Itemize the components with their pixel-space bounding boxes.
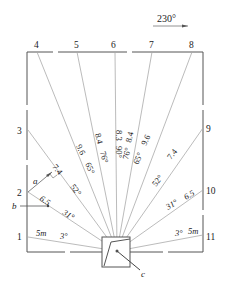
svg-text:b: b bbox=[12, 201, 17, 211]
line-11-angle: 3° bbox=[174, 228, 183, 238]
line-8-distance: 9.6 bbox=[139, 133, 153, 147]
line-3-angle: 52° bbox=[68, 182, 83, 198]
line-number-11: 11 bbox=[206, 232, 215, 242]
line-11-distance: 5m bbox=[188, 226, 198, 236]
point-icon bbox=[47, 205, 49, 207]
source-box: c bbox=[102, 237, 145, 279]
line-10-distance: 6.5 bbox=[182, 188, 196, 202]
svg-text:a: a bbox=[33, 176, 38, 186]
line-2-distance: 6.5 bbox=[38, 193, 52, 207]
line-number-10: 10 bbox=[206, 186, 216, 196]
line-number-8: 8 bbox=[189, 40, 194, 50]
field-diagram: 230° 5m 3° 6.5 31° 7.4 52° 9.6 65° 8.4 7… bbox=[0, 0, 227, 293]
line-5-angle: 76° bbox=[98, 150, 111, 164]
line-number-7: 7 bbox=[149, 40, 154, 50]
line-4-angle: 65° bbox=[83, 161, 97, 176]
line-10-angle: 31° bbox=[163, 197, 180, 213]
line-5-distance: 8.4 bbox=[93, 132, 105, 145]
line-number-5: 5 bbox=[74, 40, 79, 50]
line-4-distance: 9.6 bbox=[74, 143, 88, 157]
line-7-distance: 8.4 bbox=[123, 130, 135, 143]
line-number-9: 9 bbox=[206, 124, 211, 134]
line-1-angle: 3° bbox=[59, 231, 68, 241]
line-number-1: 1 bbox=[17, 232, 22, 242]
line-number-3: 3 bbox=[17, 126, 22, 136]
line-9-distance: 7.4 bbox=[165, 146, 180, 161]
line-3-distance: 7.4 bbox=[50, 162, 65, 177]
line-number-4: 4 bbox=[34, 40, 39, 50]
line-2-angle: 31° bbox=[60, 207, 77, 223]
marker-a: a bbox=[28, 172, 57, 192]
arrow-right-icon bbox=[182, 25, 188, 28]
line-7-angle: 76° bbox=[120, 147, 133, 161]
line-1-distance: 5m bbox=[36, 228, 46, 238]
line-6-distance: 8.3 bbox=[114, 130, 124, 141]
direction-label: 230° bbox=[157, 13, 176, 24]
ray-labels: 5m 3° 6.5 31° 7.4 52° 9.6 65° 8.4 76° 8.… bbox=[36, 130, 198, 241]
marker-c: c bbox=[141, 269, 145, 279]
line-8-angle: 65° bbox=[131, 151, 145, 166]
line-number-6: 6 bbox=[111, 40, 116, 50]
line-number-2: 2 bbox=[17, 188, 22, 198]
direction-indicator: 230° bbox=[153, 13, 188, 28]
